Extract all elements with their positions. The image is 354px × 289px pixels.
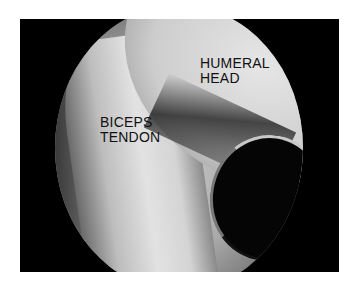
arthroscopy-image-frame (20, 19, 339, 272)
humeral-head-label: HUMERAL HEAD (200, 56, 270, 86)
biceps-tendon-label: BICEPS TENDON (100, 115, 160, 145)
biceps-tendon-label-line2: TENDON (100, 130, 160, 145)
humeral-head-label-line2: HEAD (200, 71, 270, 86)
humeral-head-label-line1: HUMERAL (200, 56, 270, 71)
biceps-tendon-label-line1: BICEPS (100, 115, 160, 130)
